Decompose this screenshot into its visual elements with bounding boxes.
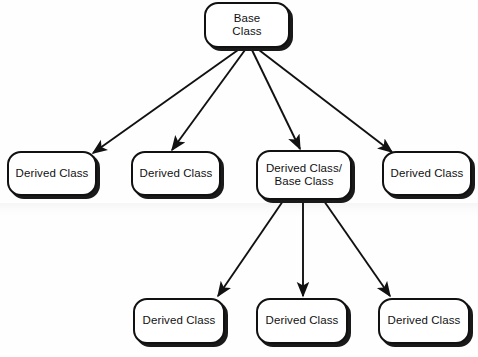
node-label: Derived Class bbox=[12, 167, 93, 181]
node-label: Derived Class bbox=[139, 314, 220, 328]
node-derived-class-6[interactable]: Derived Class bbox=[256, 298, 348, 344]
diagram-canvas: Base Class Derived Class Derived Class D… bbox=[0, 0, 478, 357]
edge-root-to-d2 bbox=[172, 50, 245, 150]
edge-root-to-d1 bbox=[93, 50, 238, 153]
node-derived-class-1[interactable]: Derived Class bbox=[7, 151, 97, 196]
edge-root-to-d4 bbox=[259, 50, 392, 152]
node-derived-class-2[interactable]: Derived Class bbox=[131, 151, 221, 196]
edge-root-to-mid bbox=[252, 50, 300, 149]
node-label: Derived Class/ Base Class bbox=[262, 162, 346, 189]
node-label: Derived Class bbox=[387, 167, 468, 181]
node-derived-class-base-class[interactable]: Derived Class/ Base Class bbox=[256, 150, 352, 200]
node-derived-class-5[interactable]: Derived Class bbox=[133, 298, 225, 344]
node-label: Derived Class bbox=[136, 167, 217, 181]
node-label: Derived Class bbox=[384, 314, 465, 328]
node-label: Derived Class bbox=[262, 314, 343, 328]
edge-mid-to-d5 bbox=[218, 201, 283, 296]
node-derived-class-4[interactable]: Derived Class bbox=[382, 151, 472, 196]
node-derived-class-7[interactable]: Derived Class bbox=[378, 298, 470, 344]
node-label: Base Class bbox=[228, 12, 265, 39]
edge-mid-to-d7 bbox=[324, 201, 390, 296]
node-base-class[interactable]: Base Class bbox=[204, 2, 290, 48]
